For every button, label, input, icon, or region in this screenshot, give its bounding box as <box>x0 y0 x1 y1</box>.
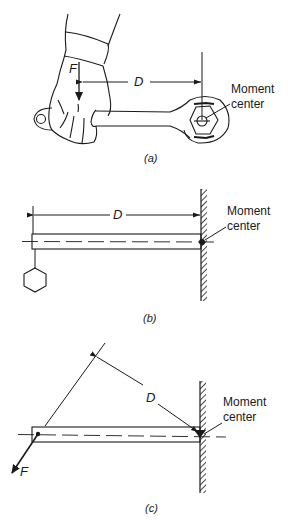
caption-a: (a) <box>144 152 157 164</box>
force-label-a: F <box>69 62 77 75</box>
hand-icon <box>49 58 111 144</box>
panel-b-cantilever <box>22 189 226 301</box>
beam-c <box>32 427 200 442</box>
distance-label-a: D <box>134 75 143 88</box>
wrench-icon <box>34 97 229 144</box>
caption-a-text: (a) <box>144 152 157 164</box>
moment-center-label-a-line2: center <box>231 98 264 111</box>
force-label-c: F <box>20 465 28 478</box>
distance-label-b: D <box>113 208 122 221</box>
line-of-action-c <box>45 343 105 426</box>
diagram-canvas <box>0 0 290 523</box>
hex-weight-icon <box>24 268 46 292</box>
moment-center-leader-c <box>204 423 222 434</box>
panel-a-wrench <box>34 14 229 144</box>
moment-center-label-b-line2: center <box>227 220 260 233</box>
caption-b-text: (b) <box>143 312 156 324</box>
distance-label-c: D <box>146 391 155 404</box>
moment-center-label-c-line1: Moment <box>223 396 266 409</box>
sleeve-icon <box>64 14 120 66</box>
caption-c: (c) <box>145 502 158 514</box>
moment-center-label-c-line2: center <box>223 411 256 424</box>
wall-hatch-b <box>201 189 207 301</box>
moment-center-label-a-line1: Moment <box>231 83 274 96</box>
moment-center-dot-b <box>199 239 205 245</box>
moment-center-leader-b <box>205 227 226 240</box>
moment-center-label-b-line1: Moment <box>227 205 270 218</box>
caption-c-text: (c) <box>145 502 158 514</box>
caption-b: (b) <box>143 312 156 324</box>
panel-c-cantilever <box>12 343 226 493</box>
